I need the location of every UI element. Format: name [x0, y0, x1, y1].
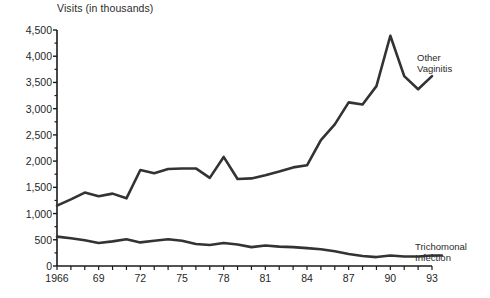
- series-label-trichomonal-infection: Trichomonal Infection: [415, 242, 467, 263]
- axes: [57, 30, 432, 266]
- x-axis-tick-label: 81: [259, 272, 271, 284]
- series-label-other-vaginitis: Other Vaginitis: [417, 53, 452, 74]
- data-series-group: [57, 36, 432, 257]
- x-axis-tick-label: 87: [343, 272, 355, 284]
- series-label-trichomonal-line2: Infection: [415, 253, 467, 264]
- x-axis-tick-label: 69: [93, 272, 105, 284]
- x-axis-tick-label: 72: [134, 272, 146, 284]
- x-axis-tick-label: 1966: [45, 272, 68, 284]
- series-label-trichomonal-line1: Trichomonal: [415, 242, 467, 253]
- series-line-trichomonal-infection: [57, 237, 432, 257]
- line-chart: Visits (in thousands) 05001,0001,5002,00…: [0, 0, 490, 298]
- x-axis-tick-label: 75: [176, 272, 188, 284]
- x-axis-tick-label: 78: [218, 272, 230, 284]
- x-axis-tick-label: 93: [426, 272, 438, 284]
- x-axis-tick-label: 90: [384, 272, 396, 284]
- series-line-other-vaginitis: [57, 36, 432, 206]
- series-label-other-vaginitis-line1: Other: [417, 53, 452, 64]
- series-label-other-vaginitis-line2: Vaginitis: [417, 64, 452, 75]
- x-axis-tick-label: 84: [301, 272, 313, 284]
